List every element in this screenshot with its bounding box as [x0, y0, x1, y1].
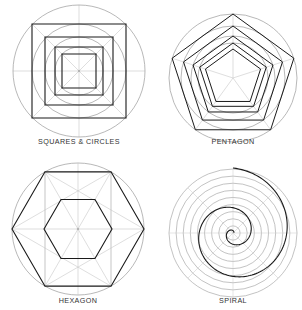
- geometric-diagram-canvas: [0, 0, 302, 310]
- spiral-label: SPIRAL: [158, 296, 302, 305]
- spiral-figure: [169, 168, 297, 297]
- star-line: [12, 172, 111, 229]
- star-line: [12, 229, 111, 286]
- pentagon-figure: [169, 14, 297, 142]
- hexagon-label: HEXAGON: [3, 296, 153, 305]
- radial-guide: [195, 78, 233, 130]
- radial-guide: [188, 188, 233, 233]
- star-line: [45, 172, 144, 229]
- squares-circles-figure: [13, 5, 145, 137]
- hexagon-figure: [12, 163, 144, 295]
- star-line: [45, 229, 144, 286]
- radial-guide: [233, 78, 271, 130]
- radial-guide: [233, 233, 278, 278]
- squares-circles-label: SQUARES & CIRCLES: [4, 137, 154, 146]
- pentagon-label: PENTAGON: [158, 137, 302, 146]
- radial-guide: [188, 233, 233, 278]
